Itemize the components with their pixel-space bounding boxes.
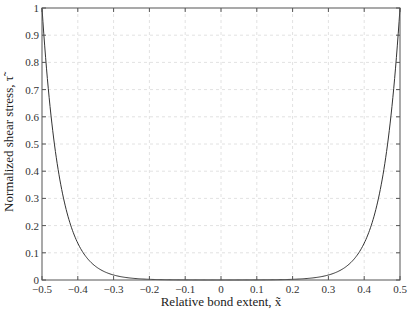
y-tick-labels: 00.10.20.30.40.50.60.70.80.91 — [25, 2, 39, 286]
y-tick-label: 0.3 — [25, 192, 39, 204]
y-tick-label: 0.5 — [25, 138, 39, 150]
x-tick-label: −0.4 — [68, 283, 88, 295]
y-tick-label: 0.7 — [25, 84, 39, 96]
shear-stress-chart: −0.5−0.4−0.3−0.2−0.100.10.20.30.40.5 00.… — [0, 0, 412, 314]
x-tick-label: −0.2 — [139, 283, 159, 295]
x-tick-label: 0.3 — [322, 283, 336, 295]
axis-ticks — [42, 8, 400, 280]
y-axis-label: Normalized shear stress, τ̃ — [1, 71, 16, 212]
shear-stress-curve — [42, 8, 400, 280]
axes-frame — [42, 8, 400, 280]
y-tick-label: 0.2 — [25, 220, 39, 232]
y-tick-label: 0.4 — [25, 165, 39, 177]
y-tick-label: 0 — [34, 274, 40, 286]
y-tick-label: 1 — [34, 2, 40, 14]
y-tick-label: 0.6 — [25, 111, 39, 123]
x-axis-label: Relative bond extent, x̃ — [161, 294, 282, 309]
x-tick-label: 0.4 — [357, 283, 371, 295]
plot-area — [42, 8, 400, 280]
x-tick-label: 0.5 — [393, 283, 407, 295]
y-tick-label: 0.8 — [25, 56, 39, 68]
grid-lines — [42, 8, 400, 280]
x-tick-label: 0.2 — [286, 283, 300, 295]
x-tick-label: −0.3 — [104, 283, 124, 295]
y-tick-label: 0.9 — [25, 29, 39, 41]
y-tick-label: 0.1 — [25, 247, 39, 259]
